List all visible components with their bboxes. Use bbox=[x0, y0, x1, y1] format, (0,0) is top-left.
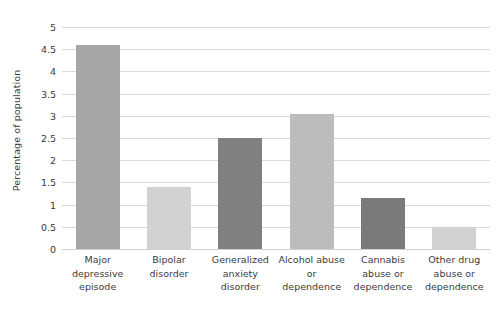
bar[interactable] bbox=[361, 198, 405, 249]
y-axis-tick-labels: 00.511.522.533.544.55 bbox=[22, 27, 62, 249]
bar-chart: Percentage of population 00.511.522.533.… bbox=[0, 0, 500, 314]
x-axis-label-line: abuse or bbox=[347, 267, 418, 281]
x-axis-label-line: disorder bbox=[205, 280, 276, 294]
y-axis-tick-label: 4 bbox=[26, 66, 56, 77]
x-axis-label-line: Generalized bbox=[205, 253, 276, 267]
x-axis-label-line: Alcohol abuse bbox=[276, 253, 347, 267]
axis-baseline bbox=[62, 249, 490, 250]
x-axis-label-line: or bbox=[276, 267, 347, 281]
x-axis-label-line: dependence bbox=[276, 280, 347, 294]
x-axis-category-labels: MajordepressiveepisodeBipolardisorderGen… bbox=[62, 253, 490, 313]
y-axis-tick-label: 1 bbox=[26, 199, 56, 210]
y-axis-tick-label: 4.5 bbox=[26, 44, 56, 55]
x-axis-label-line: Cannabis bbox=[347, 253, 418, 267]
y-axis-tick-label: 2 bbox=[26, 155, 56, 166]
x-axis-label: Alcohol abuseordependence bbox=[276, 253, 347, 294]
bar-slot bbox=[62, 27, 133, 249]
bar[interactable] bbox=[218, 138, 262, 249]
x-axis-label: Other drugabuse ordependence bbox=[419, 253, 490, 294]
y-axis-tick-label: 3.5 bbox=[26, 88, 56, 99]
y-axis-tick-label: 2.5 bbox=[26, 133, 56, 144]
x-axis-label-line: depressive bbox=[62, 267, 133, 281]
bar-slot bbox=[419, 27, 490, 249]
x-axis-label-line: Major bbox=[62, 253, 133, 267]
x-axis-label-line: abuse or bbox=[419, 267, 490, 281]
bar[interactable] bbox=[76, 45, 120, 249]
bar[interactable] bbox=[290, 114, 334, 249]
bar-slot bbox=[133, 27, 204, 249]
y-axis-tick-label: 1.5 bbox=[26, 177, 56, 188]
y-axis-title-text: Percentage of population bbox=[12, 69, 23, 191]
x-axis-label-line: Other drug bbox=[419, 253, 490, 267]
x-axis-label: Generalizedanxietydisorder bbox=[205, 253, 276, 294]
y-axis-tick-label: 0.5 bbox=[26, 221, 56, 232]
bar-slot bbox=[205, 27, 276, 249]
x-axis-label-line: Bipolar bbox=[133, 253, 204, 267]
x-axis-label-line: episode bbox=[62, 280, 133, 294]
bar-slot bbox=[276, 27, 347, 249]
x-axis-label: Majordepressiveepisode bbox=[62, 253, 133, 294]
x-axis-label-line: disorder bbox=[133, 267, 204, 281]
y-axis-tick-label: 3 bbox=[26, 110, 56, 121]
y-axis-tick-label: 5 bbox=[26, 22, 56, 33]
x-axis-label: Cannabisabuse ordependence bbox=[347, 253, 418, 294]
y-axis-tick-label: 0 bbox=[26, 244, 56, 255]
x-axis-label-line: dependence bbox=[347, 280, 418, 294]
bars-layer bbox=[62, 27, 490, 249]
bar[interactable] bbox=[432, 227, 476, 249]
bar-slot bbox=[347, 27, 418, 249]
bar[interactable] bbox=[147, 187, 191, 249]
x-axis-label-line: anxiety bbox=[205, 267, 276, 281]
x-axis-label: Bipolardisorder bbox=[133, 253, 204, 280]
x-axis-label-line: dependence bbox=[419, 280, 490, 294]
